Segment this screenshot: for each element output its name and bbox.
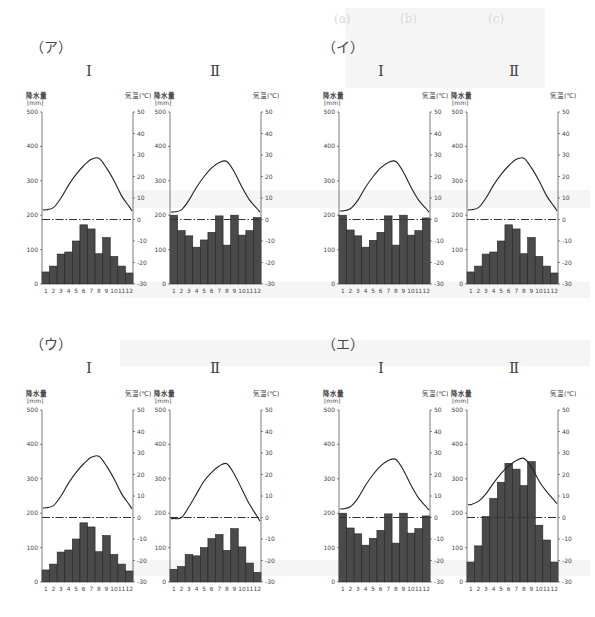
month-label: 4 (364, 288, 368, 294)
month-label: 7 (89, 288, 93, 294)
temp-tick-label: -10 (562, 535, 572, 542)
precip-tick-label: 400 (27, 142, 39, 149)
precip-tick-label: 400 (452, 142, 464, 149)
precip-bar (369, 240, 377, 284)
precip-bar (231, 529, 239, 582)
month-label: 8 (225, 586, 229, 592)
precip-unit-label: [mm] (324, 397, 340, 404)
precip-unit-label: [mm] (452, 99, 468, 106)
precip-bar (223, 245, 231, 284)
month-label: 10 (110, 586, 118, 592)
precip-tick-label: 300 (27, 177, 39, 184)
month-label: 9 (105, 288, 109, 294)
precip-tick-label: 200 (452, 509, 464, 516)
precip-tick-label: 300 (324, 177, 336, 184)
temperature-line (43, 456, 132, 509)
subtitle-a-1: Ⅰ (86, 62, 92, 80)
temp-tick-label: 20 (265, 471, 273, 478)
month-label: 2 (180, 288, 184, 294)
month-label: 6 (82, 288, 86, 294)
month-label: 6 (210, 288, 214, 294)
month-label: 2 (477, 586, 481, 592)
precip-tick-label: 100 (324, 544, 336, 551)
precip-bar (216, 535, 224, 582)
precip-bar (385, 216, 393, 284)
month-label: 2 (349, 288, 353, 294)
precip-bar (362, 247, 370, 284)
precip-tick-label: 400 (452, 440, 464, 447)
precip-bar (354, 534, 362, 582)
precip-bar (118, 564, 126, 582)
precip-bar (170, 569, 178, 582)
precip-bar (178, 231, 186, 284)
precip-bar (178, 567, 186, 582)
month-label: 8 (225, 288, 229, 294)
temperature-line (468, 158, 557, 211)
faint-header-b: (b) (400, 12, 417, 26)
month-label: 12 (254, 288, 262, 294)
precip-bar (246, 231, 254, 284)
climate-chart-i-2: 降水量[mm]気温(℃)0100200300400500-30-20-10010… (427, 88, 572, 298)
temp-tick-label: -20 (562, 259, 572, 266)
month-label: 5 (74, 288, 78, 294)
precip-bar (103, 238, 111, 284)
precip-bar (50, 266, 58, 284)
precip-tick-label: 500 (452, 108, 464, 115)
subtitle-i-2: Ⅱ (509, 62, 519, 80)
precip-tick-label: 500 (155, 406, 167, 413)
precip-bar (42, 272, 50, 284)
precip-bars (467, 462, 558, 582)
temp-tick-label: -20 (265, 557, 275, 564)
precip-bar (50, 564, 58, 582)
precip-tick-label: 100 (27, 246, 39, 253)
month-label: 10 (238, 586, 246, 592)
precip-bar (193, 556, 201, 582)
temp-tick-label: -30 (562, 280, 572, 287)
precip-bar (354, 236, 362, 284)
month-label: 6 (82, 586, 86, 592)
precip-tick-label: 200 (324, 509, 336, 516)
month-label: 1 (469, 586, 473, 592)
month-label: 1 (172, 288, 176, 294)
subtitle-a-2: Ⅱ (210, 62, 220, 80)
month-label: 6 (379, 586, 383, 592)
month-label: 2 (477, 288, 481, 294)
precip-bar (482, 517, 490, 582)
precip-tick-label: 400 (155, 142, 167, 149)
climate-chart-u-1: 降水量[mm]気温(℃)0100200300400500-30-20-10010… (2, 386, 147, 596)
month-label: 1 (341, 288, 345, 294)
precip-bar (550, 562, 558, 582)
temp-tick-label: 0 (562, 216, 566, 223)
precip-bar (505, 225, 513, 284)
month-label: 5 (371, 586, 375, 592)
precip-bar (193, 247, 201, 284)
month-label: 1 (44, 288, 48, 294)
month-label: 6 (507, 288, 511, 294)
temp-tick-label: 50 (265, 406, 273, 413)
precip-bar (223, 550, 231, 582)
precip-bar (110, 554, 118, 582)
precip-tick-label: 0 (331, 578, 335, 585)
month-label: 10 (110, 288, 118, 294)
temp-tick-label: 30 (265, 151, 273, 158)
temp-tick-label: 40 (562, 428, 570, 435)
precip-unit-label: [mm] (27, 99, 43, 106)
precip-tick-label: 0 (34, 280, 38, 287)
month-label: 4 (67, 586, 71, 592)
precip-bar (535, 256, 543, 284)
precip-bar (80, 225, 88, 284)
precip-bar (362, 545, 370, 582)
month-label: 8 (97, 586, 101, 592)
precip-bar (200, 240, 208, 284)
temp-tick-label: 40 (265, 428, 273, 435)
precip-bar (216, 216, 224, 284)
faint-header-c: (c) (488, 12, 504, 26)
month-label: 11 (118, 288, 126, 294)
precip-tick-label: 500 (324, 108, 336, 115)
precip-tick-label: 300 (155, 177, 167, 184)
precip-bars (467, 225, 558, 284)
subtitle-u-2: Ⅱ (210, 359, 220, 377)
temperature-line (171, 463, 260, 521)
temp-tick-label: -30 (265, 578, 275, 585)
precip-bar (385, 514, 393, 582)
